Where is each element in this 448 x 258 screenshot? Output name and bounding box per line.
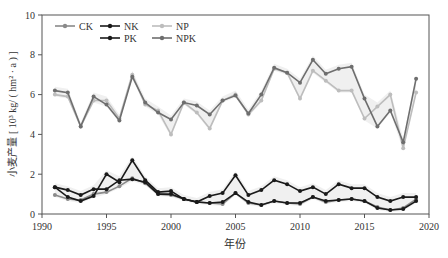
data-point-npk	[259, 93, 263, 97]
data-point-npk	[285, 71, 289, 75]
data-point-pk	[79, 199, 83, 203]
uncertainty-band	[55, 156, 416, 212]
x-tick-label: 2015	[355, 221, 375, 232]
data-point-npk	[298, 81, 302, 85]
legend-label: NPK	[176, 33, 197, 44]
data-point-np	[388, 93, 392, 97]
x-ticks: 1990199520002005201020152020	[32, 214, 439, 232]
y-ticks: 0246810	[25, 10, 42, 220]
x-tick-label: 1990	[32, 221, 52, 232]
legend-item-np: NP	[152, 21, 189, 32]
data-point-npk	[234, 94, 238, 98]
data-point-npk	[388, 109, 392, 113]
data-point-npk	[105, 103, 109, 107]
data-point-npk	[272, 66, 276, 70]
data-point-npk	[208, 113, 212, 117]
data-point-pk	[375, 206, 379, 210]
legend-label: PK	[124, 33, 138, 44]
legend-label: NP	[176, 21, 189, 32]
data-point-nk	[363, 186, 367, 190]
data-point-pk	[92, 194, 96, 198]
legend-label: NK	[124, 21, 139, 32]
data-point-np	[324, 79, 328, 83]
legend-marker	[108, 36, 112, 40]
data-point-nk	[324, 192, 328, 196]
legend-item-npk: NPK	[152, 33, 197, 44]
data-point-npk	[401, 140, 405, 144]
data-point-pk	[234, 191, 238, 195]
data-point-np	[337, 89, 341, 93]
data-point-nk	[388, 199, 392, 203]
data-point-np	[105, 99, 109, 103]
data-point-pk	[221, 200, 225, 204]
data-point-np	[311, 69, 315, 73]
legend-label: CK	[79, 21, 94, 32]
data-point-npk	[143, 101, 147, 105]
data-point-pk	[324, 199, 328, 203]
data-point-nk	[143, 180, 147, 184]
data-point-nk	[311, 185, 315, 189]
y-tick-label: 10	[25, 10, 35, 21]
data-point-nk	[350, 186, 354, 190]
data-point-np	[53, 93, 57, 97]
data-point-pk	[272, 199, 276, 203]
y-tick-label: 8	[30, 49, 35, 60]
y-tick-label: 2	[30, 169, 35, 180]
y-tick-label: 6	[30, 89, 35, 100]
data-point-nk	[221, 191, 225, 195]
data-point-pk	[130, 158, 134, 162]
data-point-nk	[234, 173, 238, 177]
data-point-pk	[246, 200, 250, 204]
y-tick-label: 0	[30, 209, 35, 220]
data-point-npk	[324, 72, 328, 76]
legend-marker	[160, 24, 164, 28]
data-point-npk	[182, 101, 186, 105]
data-point-nk	[259, 188, 263, 192]
data-point-npk	[311, 58, 315, 62]
data-point-np	[298, 97, 302, 101]
x-tick-label: 1995	[97, 221, 117, 232]
data-point-nk	[92, 187, 96, 191]
data-point-np	[414, 91, 418, 95]
data-point-npk	[246, 112, 250, 116]
data-point-npk	[414, 77, 418, 81]
data-point-ck	[117, 184, 121, 188]
y-tick-label: 4	[30, 129, 35, 140]
data-point-npk	[117, 118, 121, 122]
data-point-nk	[414, 195, 418, 199]
data-point-npk	[53, 89, 57, 93]
data-point-ck	[53, 193, 57, 197]
data-point-nk	[246, 193, 250, 197]
data-point-np	[169, 132, 173, 136]
data-point-nk	[105, 187, 109, 191]
data-point-nk	[401, 195, 405, 199]
data-point-npk	[195, 104, 199, 108]
x-tick-label: 2000	[161, 221, 181, 232]
data-point-npk	[375, 124, 379, 128]
data-point-np	[363, 116, 367, 120]
data-point-nk	[337, 182, 341, 186]
data-point-npk	[221, 99, 225, 103]
x-axis-label: 年份	[224, 237, 246, 250]
data-point-pk	[259, 203, 263, 207]
legend-item-ck: CK	[55, 21, 94, 32]
data-point-np	[208, 126, 212, 130]
data-point-npk	[169, 117, 173, 121]
data-point-pk	[208, 201, 212, 205]
legend-marker	[63, 24, 67, 28]
data-point-np	[401, 146, 405, 150]
data-point-npk	[350, 65, 354, 69]
legend: CKNKNPPKNPK	[55, 21, 197, 44]
data-point-npk	[337, 67, 341, 71]
data-point-pk	[337, 198, 341, 202]
data-point-pk	[311, 195, 315, 199]
x-tick-label: 2005	[226, 221, 246, 232]
data-point-pk	[401, 207, 405, 211]
data-point-np	[195, 111, 199, 115]
data-point-nk	[130, 177, 134, 181]
data-point-pk	[414, 199, 418, 203]
data-point-pk	[350, 197, 354, 201]
data-point-nk	[169, 192, 173, 196]
data-point-np	[375, 105, 379, 109]
data-point-nk	[272, 178, 276, 182]
